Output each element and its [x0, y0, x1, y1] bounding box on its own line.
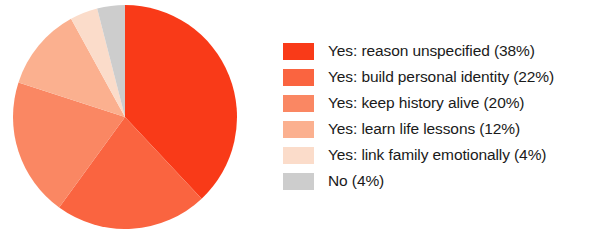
pie-slice-group	[13, 5, 237, 229]
legend-item-label: Yes: keep history alive (20%)	[328, 94, 524, 112]
legend-item: Yes: link family emotionally (4%)	[283, 142, 601, 168]
pie-chart-plot-area	[13, 5, 237, 229]
legend-color-swatch	[283, 43, 314, 60]
legend-item-label: Yes: build personal identity (22%)	[328, 68, 554, 86]
chart-legend: Yes: reason unspecified (38%)Yes: build …	[283, 38, 601, 194]
legend-item-label: Yes: link family emotionally (4%)	[328, 146, 546, 164]
legend-color-swatch	[283, 95, 314, 112]
legend-item-label: Yes: learn life lessons (12%)	[328, 120, 520, 138]
legend-item: Yes: learn life lessons (12%)	[283, 116, 601, 142]
legend-color-swatch	[283, 69, 314, 86]
legend-item: No (4%)	[283, 168, 601, 194]
pie-chart-svg	[13, 5, 237, 229]
legend-color-swatch	[283, 147, 314, 164]
pie-chart-figure: Yes: reason unspecified (38%)Yes: build …	[0, 0, 604, 245]
legend-item: Yes: reason unspecified (38%)	[283, 38, 601, 64]
legend-item-label: Yes: reason unspecified (38%)	[328, 42, 535, 60]
legend-color-swatch	[283, 173, 314, 190]
legend-color-swatch	[283, 121, 314, 138]
legend-item: Yes: keep history alive (20%)	[283, 90, 601, 116]
legend-item-label: No (4%)	[328, 172, 384, 190]
legend-item: Yes: build personal identity (22%)	[283, 64, 601, 90]
